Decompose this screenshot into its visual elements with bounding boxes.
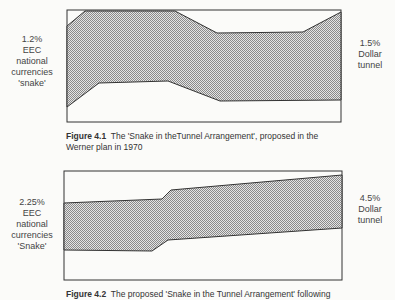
fig1-right-label: 1.5% Dollar tunnel xyxy=(350,38,390,71)
figure-4-1-diagram xyxy=(67,10,341,122)
label-line: EEC xyxy=(2,208,62,219)
caption-text: The 'Snake in theTunnel Arrangement', pr… xyxy=(111,131,319,141)
figure-4-2-diagram xyxy=(64,171,342,280)
label-line: tunnel xyxy=(350,60,390,71)
label-line: 'snake' xyxy=(2,78,62,89)
fig2-caption: Figure 4.2 The proposed 'Snake in the Tu… xyxy=(66,289,395,300)
label-line: currencies xyxy=(2,67,62,78)
caption-text: The proposed 'Snake in the Tunnel Arrang… xyxy=(111,289,331,299)
label-line: 2.25% xyxy=(2,197,62,208)
fig1-caption: Figure 4.1 The 'Snake in theTunnel Arran… xyxy=(66,131,366,153)
label-line: EEC xyxy=(2,45,62,56)
label-line: 4.5% xyxy=(350,193,390,204)
fig2-left-label: 2.25% EEC national currencies 'Snake' xyxy=(2,197,62,252)
label-line: Dollar xyxy=(350,204,390,215)
fig1-left-label: 1.2% EEC national currencies 'snake' xyxy=(2,34,62,89)
label-line: 1.2% xyxy=(2,34,62,45)
caption-text: Werner plan in 1970 xyxy=(66,142,142,152)
label-line: 'Snake' xyxy=(2,241,62,252)
label-line: national xyxy=(2,219,62,230)
label-line: Dollar xyxy=(350,49,390,60)
label-line: tunnel xyxy=(350,215,390,226)
fig2-right-label: 4.5% Dollar tunnel xyxy=(350,193,390,226)
caption-number: Figure 4.2 xyxy=(66,289,106,299)
caption-number: Figure 4.1 xyxy=(66,131,106,141)
label-line: 1.5% xyxy=(350,38,390,49)
label-line: currencies xyxy=(2,230,62,241)
label-line: national xyxy=(2,56,62,67)
